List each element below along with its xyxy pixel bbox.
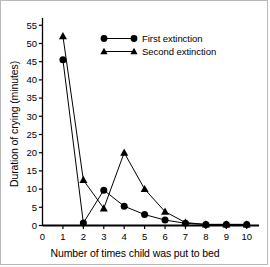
chart-series-1 [59,56,250,228]
data-point-marker [79,176,87,183]
x-axis-tick-label: 6 [162,231,167,242]
y-axis-tick-label: 35 [26,92,37,103]
y-axis-tick-label: 50 [26,38,37,49]
x-axis-tick-label: 7 [183,231,188,242]
x-axis-tick-label: 9 [224,231,229,242]
y-axis-tick-label: 10 [26,183,37,194]
x-axis-tick-label: 1 [60,231,65,242]
x-axis-tick-label: 2 [81,231,86,242]
x-axis-tick-label: 5 [142,231,147,242]
data-point-marker [141,185,149,192]
x-axis-title: Number of times child was put to bed [1,247,269,259]
data-point-marker [80,219,87,226]
legend-label-first-extinction: First extinction [142,33,202,44]
x-axis-tick-label: 10 [241,231,252,242]
chart-series-2 [59,32,251,227]
y-axis-tick-label: 25 [26,129,37,140]
y-axis-tick-label: 5 [32,202,37,213]
data-point-marker [100,187,107,194]
y-axis-tick-label: 45 [26,56,37,67]
x-axis-tick-label: 3 [101,231,106,242]
chart-legend: First extinction Second extinction [99,33,216,59]
x-axis-tick-label: 4 [122,231,127,242]
legend-item-first-extinction: First extinction [99,33,216,44]
x-axis-tick-label: 8 [203,231,208,242]
data-point-marker [121,203,128,210]
data-point-marker [59,32,67,39]
data-point-marker [141,211,148,218]
data-point-marker [120,148,128,155]
data-point-marker [162,217,169,224]
legend-key-circle-icon [99,33,139,44]
y-axis-title: Duration of crying (minutes) [8,44,20,204]
y-axis-tick-label: 55 [26,20,37,31]
chart-figure: 0510152025303540455055012345678910 Durat… [0,0,268,265]
y-axis-tick-label: 40 [26,74,37,85]
legend-label-second-extinction: Second extinction [142,46,216,57]
y-axis-tick-label: 20 [26,147,37,158]
x-axis-tick-label: 0 [40,231,45,242]
series-line [63,36,247,224]
legend-item-second-extinction: Second extinction [99,46,216,57]
legend-key-triangle-icon [99,46,139,57]
y-axis-tick-label: 30 [26,111,37,122]
y-axis-tick-label: 0 [32,220,37,231]
y-axis-tick-label: 15 [26,165,37,176]
data-point-marker [59,56,66,63]
